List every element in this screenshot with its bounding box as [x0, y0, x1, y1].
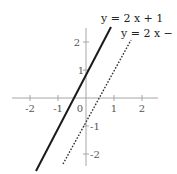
line-y-2x-plus-1 [36, 27, 111, 171]
x-tick-label: 1 [111, 103, 117, 114]
y-tick-label: -1 [90, 121, 100, 132]
line-y-2x-minus-1 [63, 40, 131, 164]
y-tick-label: 2 [74, 37, 80, 48]
origin-label: 0 [77, 103, 83, 114]
x-tick-label: -2 [25, 103, 35, 114]
x-tick-label: -1 [53, 103, 63, 114]
line-plot: -2 -1 0 1 2 2 1 -1 -2 y = 2 x + 1 y = 2 … [0, 0, 177, 174]
line2-label: y = 2 x − 1 [120, 27, 177, 40]
x-tick-label: 2 [139, 103, 145, 114]
y-tick-label: -2 [90, 149, 100, 160]
line1-label: y = 2 x + 1 [100, 12, 163, 25]
y-tick-label: 1 [78, 65, 84, 76]
